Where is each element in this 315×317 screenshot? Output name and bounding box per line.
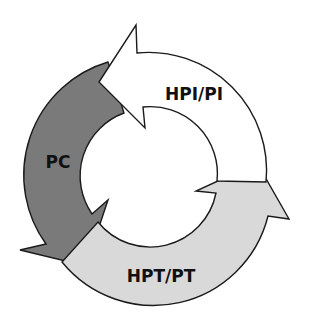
cycle-diagram-svg: HPI/PI HPT/PT PC — [0, 0, 315, 317]
label-pc: PC — [46, 152, 71, 172]
cycle-diagram: HPI/PI HPT/PT PC — [0, 0, 315, 317]
label-hpt: HPT/PT — [127, 266, 196, 286]
label-hpi: HPI/PI — [165, 84, 223, 104]
